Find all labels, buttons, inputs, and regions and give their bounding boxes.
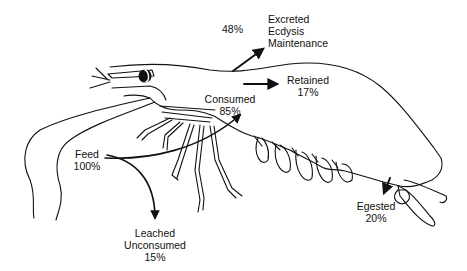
egested-label: Egested 20% [354, 200, 398, 224]
consumed-name: Consumed [204, 93, 256, 105]
consumed-label: Consumed 85% [204, 93, 256, 117]
feed-name: Feed [70, 148, 104, 160]
leached-label: Leached Unconsumed 15% [120, 227, 190, 263]
feed-percent: 100% [70, 160, 104, 172]
shrimp-body-outline [110, 63, 442, 187]
consumed-percent: 85% [204, 105, 256, 117]
retained-percent: 17% [284, 86, 332, 98]
leg-1 [137, 118, 172, 140]
leg-4 [195, 125, 204, 212]
arrow-excreted [233, 49, 263, 71]
excreted-label: Excreted Ecdysis Maintenance [268, 13, 328, 49]
egested-name: Egested [354, 200, 398, 212]
retained-name: Retained [284, 74, 332, 86]
tail-fan [398, 186, 435, 226]
excreted-line-2: Ecdysis [268, 25, 328, 37]
leached-percent: 15% [120, 251, 190, 263]
pleopods [256, 138, 352, 182]
leached-line-2: Unconsumed [120, 239, 190, 251]
leg-3 [172, 124, 194, 180]
excreted-line-1: Excreted [268, 13, 328, 25]
egested-percent: 20% [354, 212, 398, 224]
leached-line-1: Leached [120, 227, 190, 239]
leg-2 [163, 122, 183, 150]
excreted-line-3: Maintenance [268, 37, 328, 49]
arrow-egested [384, 178, 390, 193]
arrow-feed-leached [107, 155, 155, 218]
shrimp-illustration [0, 0, 467, 271]
excreted-percent: 48% [222, 23, 243, 35]
arrow-feed-consumed [105, 115, 240, 158]
retained-label: Retained 17% [284, 74, 332, 98]
leg-5 [210, 126, 242, 198]
feed-label: Feed 100% [70, 148, 104, 172]
